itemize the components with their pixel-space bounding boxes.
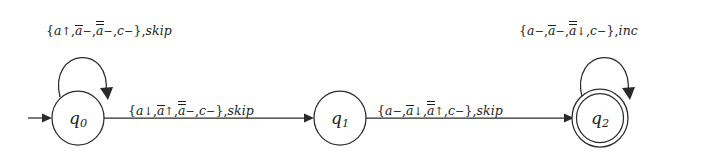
state-label-q1: q1 [331, 108, 349, 130]
state-label-q2: q2 [591, 108, 609, 130]
automaton-diagram: q0 q1 q2 {a↑,a−,a−,c−},skip {a↓,a↑,a−,c−… [0, 0, 707, 164]
start-arrow [28, 114, 52, 123]
transition-label-q0-self: {a↑,a−,a−,c−},skip [46, 21, 172, 38]
transition-label-q1-q2: {a−,a↓,a↑,c−},skip [377, 101, 503, 118]
transition-label-q0-q1: {a↓,a↑,a−,c−},skip [128, 101, 254, 118]
transition-label-q2-self: {a−,a−,a↓,c−},inc [519, 21, 638, 38]
state-label-q0: q0 [69, 108, 87, 130]
